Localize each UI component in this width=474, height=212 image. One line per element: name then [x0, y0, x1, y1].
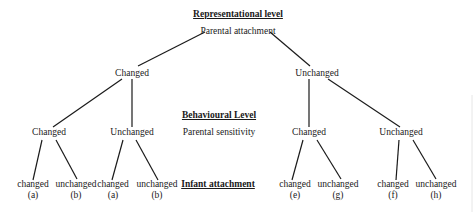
leaf-code: (f) — [377, 190, 409, 201]
node-l2-changed-a: Changed — [32, 127, 66, 138]
leaf-code: (h) — [415, 190, 456, 201]
leaf-node: changed (f) — [377, 179, 409, 200]
node-l1-unchanged: Unchanged — [295, 68, 338, 79]
parental-sensitivity-label: Parental sensitivity — [183, 127, 256, 138]
node-l2-unchanged-a: Unchanged — [110, 127, 153, 138]
leaf-label: unchanged — [136, 179, 177, 190]
leaf-node: unchanged (h) — [415, 179, 456, 200]
leaf-node: unchanged (b) — [55, 179, 96, 200]
leaf-label: unchanged — [415, 179, 456, 190]
leaf-code: (b) — [136, 190, 177, 201]
representational-level-heading: Representational level — [193, 9, 283, 20]
leaf-label: unchanged — [55, 179, 96, 190]
edge-l1c-changed — [53, 79, 122, 127]
edge-root-changed — [138, 32, 205, 66]
leaf-node: unchanged (g) — [317, 179, 358, 200]
behavioural-level-heading: Behavioural Level — [182, 110, 256, 121]
leaf-node: changed (a) — [97, 179, 129, 200]
node-l1-changed: Changed — [115, 68, 149, 79]
edge-l1u-unchanged — [328, 79, 400, 127]
leaf-label: changed — [377, 179, 409, 190]
leaf-code: (a) — [17, 190, 49, 201]
node-l2-unchanged-b: Unchanged — [379, 127, 422, 138]
leaf-node: changed (e) — [279, 179, 311, 200]
leaf-code: (e) — [279, 190, 311, 201]
root-node-parental-attachment: Parental attachment — [200, 26, 275, 37]
leaf-label: changed — [17, 179, 49, 190]
leaf-label: changed — [279, 179, 311, 190]
leaf-node: changed (a) — [17, 179, 49, 200]
leaf-node: unchanged (b) — [136, 179, 177, 200]
leaf-code: (g) — [317, 190, 358, 201]
leaf-code: (b) — [55, 190, 96, 201]
infant-attachment-heading: Infant attachment — [181, 179, 255, 190]
leaf-label: changed — [97, 179, 129, 190]
leaf-code: (a) — [97, 190, 129, 201]
node-l2-changed-b: Changed — [292, 127, 326, 138]
leaf-label: unchanged — [317, 179, 358, 190]
edge-root-unchanged — [270, 32, 310, 66]
